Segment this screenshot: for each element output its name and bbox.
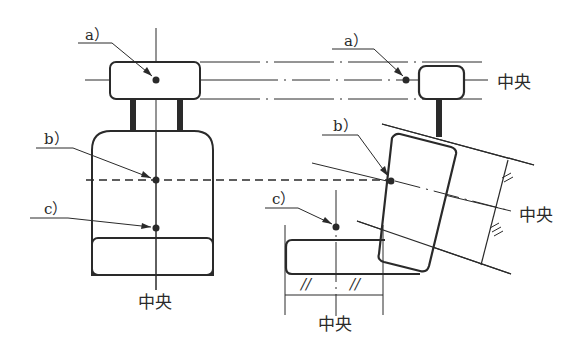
left-post-right: [177, 99, 183, 131]
left-post-left: [130, 99, 136, 131]
right-head-box: [419, 66, 464, 99]
left-body: [92, 131, 213, 275]
point-a-right: [403, 77, 410, 84]
center-of-gravity-diagram: a） b） c） 中央: [0, 0, 578, 355]
tilted-dimension-line: [481, 160, 508, 265]
label-center-right-bottom: 中央: [318, 314, 352, 334]
arrow-c-left: [141, 223, 151, 229]
label-center-right-tilted: 中央: [519, 205, 553, 225]
equal-mark-left: //: [299, 275, 313, 293]
point-b-left: [153, 177, 160, 184]
leader-b-left: [36, 148, 151, 178]
left-base-box: [92, 238, 213, 275]
label-c-right: c）: [272, 190, 295, 208]
point-c-left: [153, 225, 160, 232]
equal-mark-right: //: [348, 275, 362, 293]
label-a-left: a）: [85, 26, 109, 44]
point-b-right: [388, 178, 395, 185]
leader-c-left: [30, 218, 151, 227]
label-a-right: a）: [344, 32, 368, 50]
point-c-right: [333, 224, 340, 231]
label-c-left: c）: [44, 200, 67, 218]
leader-b-right: [322, 135, 388, 176]
label-b-right: b）: [333, 117, 358, 135]
label-b-left: b）: [44, 130, 69, 148]
right-post: [436, 99, 442, 137]
leader-c-right: [265, 208, 332, 224]
label-center-left: 中央: [138, 292, 172, 312]
arrow-b-left: [141, 171, 151, 178]
tilted-equal-marks: [490, 173, 513, 236]
label-center-right-top: 中央: [497, 72, 531, 92]
point-a-left: [153, 77, 160, 84]
arrow-c-right: [322, 217, 332, 224]
